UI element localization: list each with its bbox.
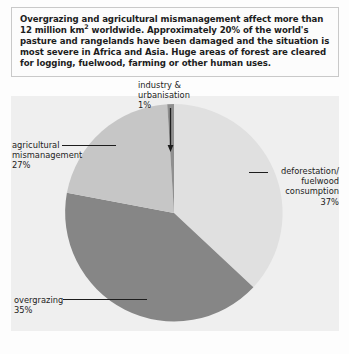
pie-label-overgrazing: overgrazing 35% (14, 295, 63, 315)
caption-text: Overgrazing and agricultural mismanageme… (20, 14, 330, 69)
pie-label-industry-percent: 1% (138, 100, 190, 110)
pie-label-deforestation-line1: deforestation/ (281, 166, 339, 176)
pie-label-industry-line1: industry & (138, 80, 181, 90)
caption-box: Overgrazing and agricultural mismanageme… (11, 7, 339, 77)
pie-label-overgrazing-line1: overgrazing (14, 295, 63, 305)
pie-label-deforestation-percent: 37% (251, 197, 339, 207)
pie-label-industry: industry & urbanisation 1% (138, 80, 190, 111)
pie-label-agricultural-line2: mismanagement (12, 150, 82, 160)
pie-label-deforestation: deforestation/ fuelwood consumption 37% (251, 166, 339, 207)
pie-label-overgrazing-percent: 35% (14, 305, 63, 315)
pie-label-agricultural-percent: 27% (12, 160, 82, 170)
pie-label-deforestation-line3: consumption (285, 186, 339, 196)
pie-label-industry-line2: urbanisation (138, 90, 190, 100)
pie-label-agricultural-line1: agricultural (12, 140, 60, 150)
pie-label-deforestation-line2: fuelwood (301, 176, 339, 186)
caption-line-5: human uses. (210, 58, 271, 68)
pie-label-agricultural: agricultural mismanagement 27% (12, 140, 82, 171)
caption-line-2-pre: km (70, 25, 85, 35)
